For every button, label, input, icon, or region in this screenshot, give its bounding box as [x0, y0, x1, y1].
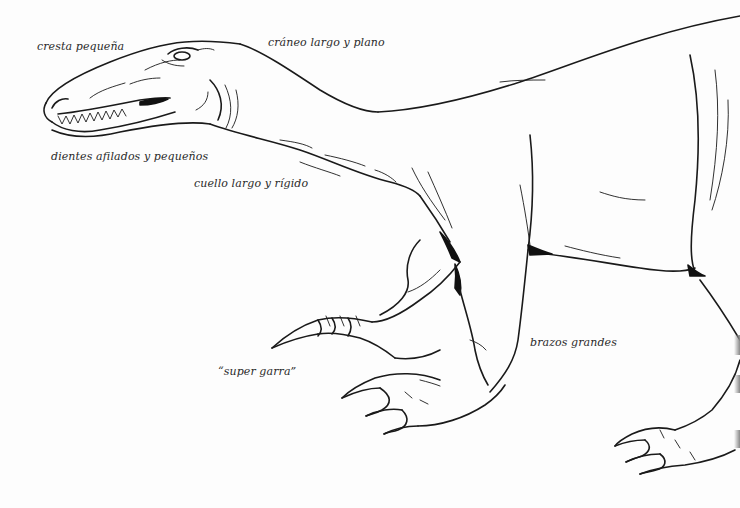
rear-foot — [615, 428, 735, 474]
head — [44, 41, 240, 136]
page-edge-shadow — [734, 375, 740, 393]
illustration-canvas: cresta pequeña cráneo largo y plano dien… — [0, 0, 740, 508]
page-edge-shadow — [734, 430, 740, 448]
label-cuello-largo: cuello largo y rígido — [194, 177, 308, 190]
label-craneo-largo-y-plano: cráneo largo y plano — [268, 36, 385, 49]
label-super-garra: “super garra” — [218, 365, 296, 378]
neck — [210, 44, 420, 196]
label-dientes-afilados: dientes afilados y pequeños — [51, 150, 208, 163]
page-edge-shadow — [734, 335, 740, 355]
dinosaur-drawing — [0, 0, 740, 508]
body — [378, 16, 740, 430]
label-brazos-grandes: brazos grandes — [530, 336, 617, 349]
label-cresta-pequena: cresta pequeña — [37, 40, 124, 53]
left-arm — [272, 240, 460, 359]
